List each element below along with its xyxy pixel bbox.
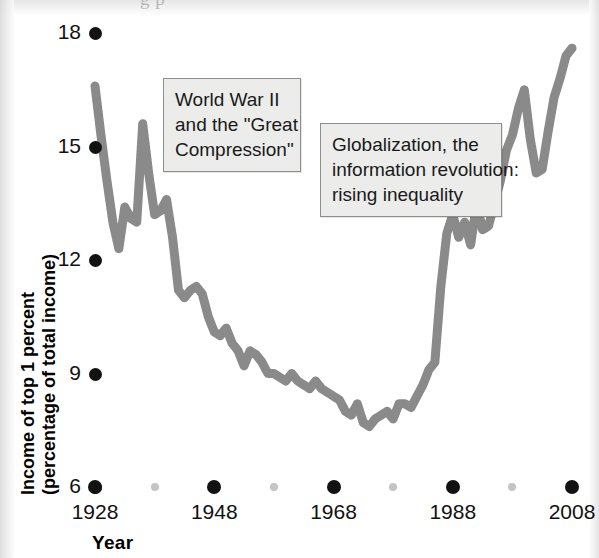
annotation-globalization: Globalization, theinformation revolution… — [320, 123, 502, 217]
annotation-line: rising inequality — [332, 182, 490, 207]
x-tick-dot — [565, 480, 579, 494]
x-tick-dot — [327, 480, 341, 494]
y-axis-title: Income of top 1 percent(percentage of to… — [18, 254, 60, 495]
x-minor-tick-dot — [270, 483, 278, 491]
x-tick-label: 1928 — [50, 500, 140, 524]
chart-figure: g p 6912151819281948196819882008 Year In… — [0, 0, 599, 558]
annotation-line: World War II — [175, 87, 289, 112]
y-tick-dot — [89, 368, 102, 381]
x-axis-title: Year — [92, 532, 133, 554]
y-tick-dot — [89, 254, 102, 267]
x-tick-dot — [88, 480, 102, 494]
y-axis-title-line: (percentage of total income) — [39, 254, 60, 495]
annotation-line: and the "Great — [175, 112, 289, 137]
annotation-line: information revolution: — [332, 157, 490, 182]
y-tick-dot — [89, 27, 102, 40]
y-tick-dot — [89, 141, 102, 154]
y-axis-title-line: Income of top 1 percent — [18, 254, 39, 495]
y-tick-label: 18 — [15, 20, 81, 44]
y-tick-label: 15 — [15, 134, 81, 158]
annotation-line: Globalization, the — [332, 132, 490, 157]
x-tick-label: 2008 — [527, 500, 599, 524]
annotation-world-war-ii: World War IIand the "GreatCompression" — [163, 78, 301, 172]
x-tick-dot — [446, 480, 460, 494]
x-tick-label: 1948 — [169, 500, 259, 524]
x-tick-label: 1988 — [408, 500, 498, 524]
annotation-line: Compression" — [175, 137, 289, 162]
x-minor-tick-dot — [151, 483, 159, 491]
x-tick-label: 1968 — [289, 500, 379, 524]
